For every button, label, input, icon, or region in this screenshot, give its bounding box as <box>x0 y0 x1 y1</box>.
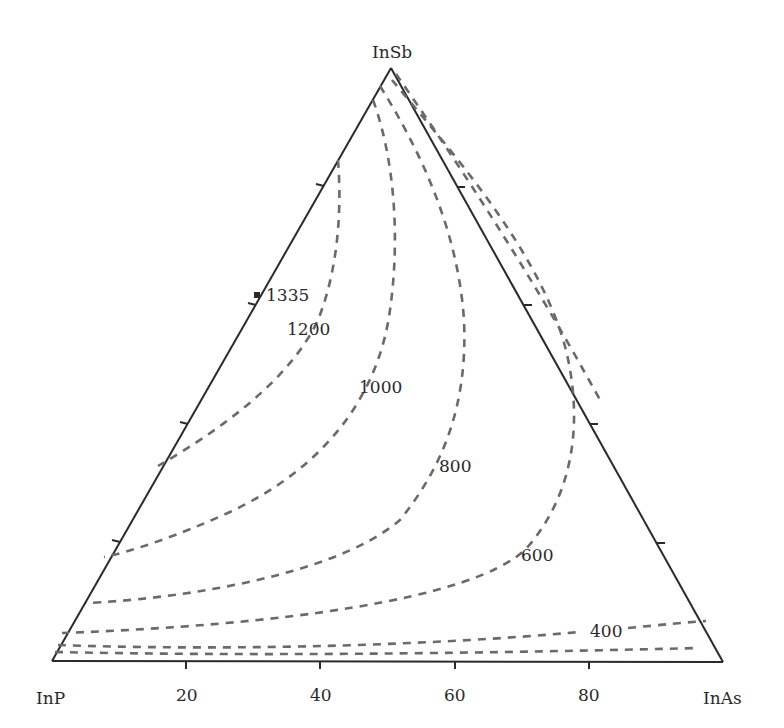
isotherm-bottom <box>55 648 700 654</box>
tick-label-60: 60 <box>444 685 466 705</box>
triangle-frame <box>52 68 723 662</box>
isotherm-label-400: 400 <box>590 621 622 641</box>
isotherm-label-1200: 1200 <box>287 319 330 339</box>
melting-point-marker <box>254 292 260 298</box>
tick-label-40: 40 <box>310 685 332 705</box>
isotherm-800 <box>86 86 464 603</box>
isotherm-outer <box>396 74 600 400</box>
isotherm-label-1335: 1335 <box>266 285 309 305</box>
left-ticks <box>112 184 324 542</box>
isotherm-label-600: 600 <box>521 545 553 565</box>
isotherm-label-1000: 1000 <box>359 377 402 397</box>
ternary-diagram: InSb InP InAs 20 40 60 80 1335 1200 1000… <box>0 0 784 728</box>
tick-label-20: 20 <box>176 685 198 705</box>
tick-label-80: 80 <box>578 685 600 705</box>
vertex-label-insb: InSb <box>372 42 412 62</box>
isotherm-1000 <box>104 100 395 557</box>
edge-inp-insb <box>52 68 391 661</box>
isotherms <box>55 74 706 654</box>
edge-inp-inas <box>52 661 723 662</box>
edge-insb-inas <box>391 68 723 662</box>
vertex-label-inas: InAs <box>703 688 742 708</box>
isotherm-label-800: 800 <box>439 456 471 476</box>
isotherm-600 <box>62 80 574 633</box>
vertex-label-inp: InP <box>36 688 65 708</box>
